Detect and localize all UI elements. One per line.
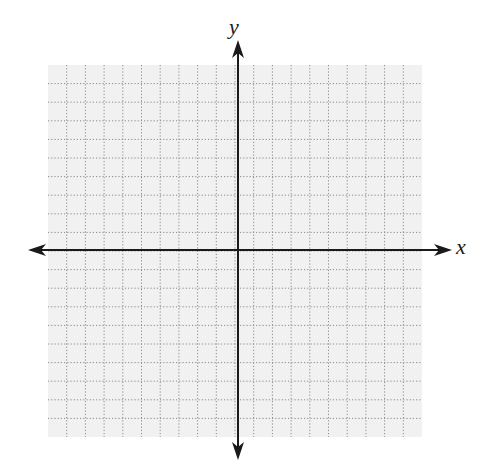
y-axis-label: y: [229, 16, 239, 38]
x-axis-label: x: [456, 236, 466, 258]
coordinate-plane: [0, 0, 487, 476]
